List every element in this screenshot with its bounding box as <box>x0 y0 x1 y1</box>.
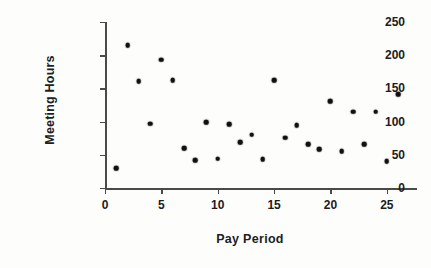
y-tick-mark <box>100 55 105 56</box>
x-tick-mark <box>161 189 162 194</box>
y-axis-title-text: Meeting Hours <box>43 55 57 144</box>
y-tick-mark <box>100 155 105 156</box>
data-point <box>238 140 243 145</box>
y-axis-line <box>105 22 107 189</box>
y-tick-mark <box>100 122 105 123</box>
data-point <box>306 142 311 147</box>
data-point <box>125 43 130 48</box>
y-tick-label: 200 <box>371 48 405 62</box>
data-point <box>328 99 333 104</box>
x-tick-label: 0 <box>90 198 120 212</box>
x-tick-mark <box>218 189 219 194</box>
data-point <box>148 121 153 126</box>
data-point <box>261 157 266 162</box>
data-point <box>351 109 356 114</box>
data-point <box>193 158 198 163</box>
x-tick-label: 10 <box>203 198 233 212</box>
x-tick-mark <box>387 189 388 194</box>
data-point <box>159 58 164 63</box>
data-point <box>182 146 187 151</box>
data-point <box>204 120 209 125</box>
data-point <box>227 122 232 127</box>
data-point <box>137 79 142 84</box>
x-tick-label: 5 <box>146 198 176 212</box>
x-tick-mark <box>274 189 275 194</box>
data-point <box>249 133 254 138</box>
x-tick-label: 20 <box>315 198 345 212</box>
x-tick-label: 15 <box>259 198 289 212</box>
data-point <box>362 142 367 147</box>
x-tick-mark <box>105 189 106 194</box>
data-point <box>373 109 378 114</box>
plot-area: 050100150200250 0510152025 <box>105 22 415 188</box>
y-tick-mark <box>100 22 105 23</box>
data-point <box>215 156 220 161</box>
data-point <box>317 147 322 152</box>
data-point <box>170 78 175 83</box>
data-point <box>114 166 119 171</box>
x-axis-title: Pay Period <box>100 232 400 246</box>
data-point <box>385 159 390 164</box>
x-tick-mark <box>330 189 331 194</box>
y-tick-label: 100 <box>371 115 405 129</box>
data-point <box>294 123 299 128</box>
data-point <box>283 135 288 140</box>
scatter-chart-figure: Meeting Hours 050100150200250 0510152025… <box>0 0 431 268</box>
data-point <box>339 149 344 154</box>
x-tick-label: 25 <box>372 198 402 212</box>
data-point <box>272 78 277 83</box>
data-point <box>396 92 401 97</box>
y-tick-label: 250 <box>371 15 405 29</box>
y-tick-mark <box>100 88 105 89</box>
y-axis-title: Meeting Hours <box>0 0 100 200</box>
